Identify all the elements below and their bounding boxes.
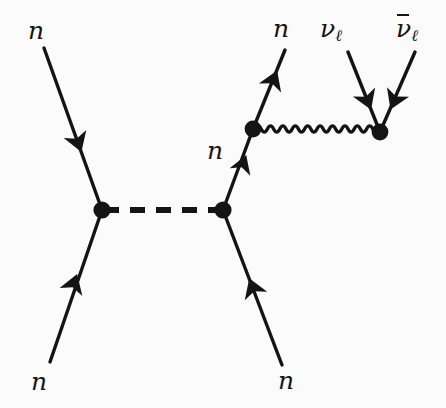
antineutrino-symbol-with-bar: ν (396, 16, 411, 41)
label-incoming-neutron-upper-left: n (28, 18, 44, 43)
line-antineutrino (380, 52, 415, 132)
antineutrino-flavor-subscript: ℓ (411, 26, 418, 45)
neutrino-flavor-subscript: ℓ (335, 26, 342, 45)
arrowhead-outgoing-neutron-upper-right (259, 66, 288, 93)
vertex-dots (93, 121, 388, 219)
propagator-weak-boson (255, 126, 379, 132)
arrowhead-incoming-neutron-upper-left (64, 130, 93, 156)
neutrino-symbol: ν (320, 14, 335, 43)
label-neutrino: νℓ (320, 16, 342, 44)
arrowhead-outgoing-neutron-lower-right (238, 274, 267, 300)
vertex-dot-neutrino-pair (372, 124, 389, 141)
label-incoming-neutron-lower-left: n (31, 369, 47, 394)
vertex-dot-weak-emission (245, 121, 262, 138)
line-incoming-neutron-upper-left (44, 48, 102, 210)
label-outgoing-neutron-upper-right: n (273, 16, 289, 41)
arrowhead-antineutrino (379, 87, 409, 114)
antineutrino-symbol: ν (396, 14, 411, 43)
feynman-diagram: n n n n n νℓ νℓ (0, 0, 446, 408)
vertex-dot-left (93, 201, 110, 218)
label-internal-neutron: n (207, 138, 223, 163)
label-antineutrino: νℓ (396, 16, 418, 44)
diagram-canvas (0, 0, 446, 408)
label-outgoing-neutron-lower-right: n (278, 368, 294, 393)
line-neutrino (348, 52, 380, 132)
arrowhead-neutrino (353, 88, 382, 115)
vertex-dot-right (214, 201, 231, 218)
wavy-boson-line (255, 126, 379, 132)
